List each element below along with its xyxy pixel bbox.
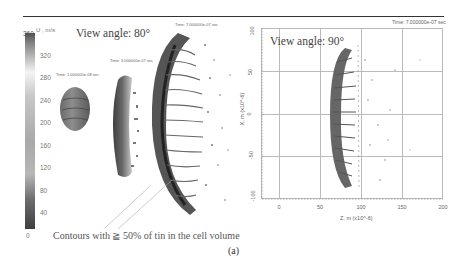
x-tick: 200 [438, 204, 447, 210]
y-tick: -50 [248, 151, 254, 159]
y-tick: 0 [246, 112, 252, 115]
y-tick: 100 [249, 26, 255, 35]
x-tick: 100 [356, 204, 365, 210]
x-tick: 150 [397, 204, 406, 210]
x-tick: 0 [277, 204, 280, 210]
y-tick: -100 [250, 190, 256, 201]
figure-label: (a) [228, 245, 239, 256]
contour-annotation: Contours with ≧ 50% of tin in the cell v… [53, 230, 240, 241]
projection-plot [0, 0, 473, 257]
x-axis-label: Z, m (x10^-6) [340, 215, 373, 221]
x-tick: 50 [317, 204, 323, 210]
y-axis-label: X, m (x10^-6) [239, 93, 245, 126]
y-tick: 50 [247, 69, 253, 75]
